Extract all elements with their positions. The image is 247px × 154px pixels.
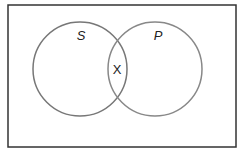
set-p-label: P	[154, 28, 163, 43]
intersection-x-mark: X	[113, 62, 122, 77]
set-s-label: S	[77, 28, 86, 43]
venn-diagram: S P X	[0, 0, 247, 154]
